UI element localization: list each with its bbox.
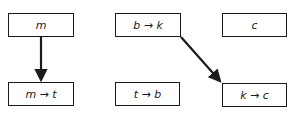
edges-layer	[0, 0, 290, 116]
edge-b-k-to-k-c-arrow	[181, 37, 220, 81]
